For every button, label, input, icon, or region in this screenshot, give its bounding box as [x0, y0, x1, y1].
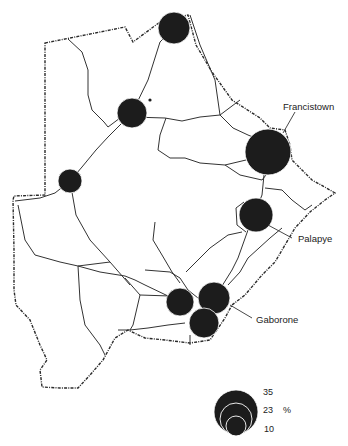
legend-value-35: 35: [263, 387, 273, 397]
country-border: [13, 15, 335, 388]
legend-value-23: 23: [263, 405, 273, 415]
town-circle-maun[interactable]: [117, 98, 147, 128]
legend-value-10: 10: [264, 424, 274, 434]
point-marker: [148, 98, 151, 101]
botswana-map: [0, 0, 348, 446]
legend-circles: [214, 390, 258, 436]
town-circle-west[interactable]: [58, 169, 82, 193]
leader-gaborone: [230, 305, 252, 318]
leader-francistown: [283, 112, 295, 133]
town-circle-molepolole[interactable]: [166, 288, 194, 316]
label-palapye: Palapye: [298, 233, 332, 244]
legend-circle-10: [226, 416, 246, 436]
town-circle-north[interactable]: [158, 12, 190, 44]
label-gaborone: Gaborone: [256, 314, 298, 325]
town-circle-palapye[interactable]: [239, 198, 273, 232]
town-circles: [58, 12, 291, 338]
town-circle-gaborone[interactable]: [189, 308, 219, 338]
label-francistown: Francistown: [283, 101, 334, 112]
town-circle-francistown[interactable]: [245, 129, 291, 175]
legend-unit: %: [283, 405, 291, 415]
